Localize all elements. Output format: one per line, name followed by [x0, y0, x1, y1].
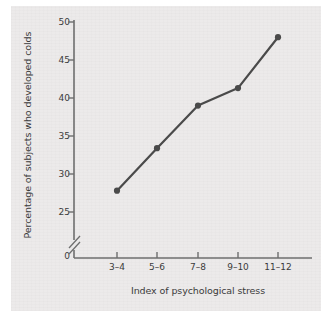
- data-markers: [114, 34, 281, 194]
- data-point-7-8: [195, 103, 201, 109]
- plot-area: Percentage of subjects who developed col…: [0, 0, 335, 323]
- chart-figure: Percentage of subjects who developed col…: [0, 0, 335, 323]
- data-point-9-10: [235, 85, 241, 91]
- data-point-5-6: [154, 145, 160, 151]
- data-point-3-4: [114, 188, 120, 194]
- data-line: [117, 37, 278, 191]
- chart-canvas: [0, 0, 335, 323]
- data-point-11-12: [275, 34, 281, 40]
